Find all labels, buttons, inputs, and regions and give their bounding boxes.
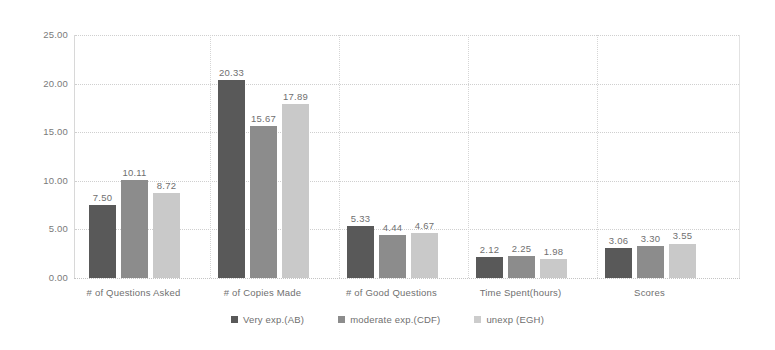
legend-item-label: unexp (EGH) — [486, 314, 544, 325]
y-axis-tick-label: 10.00 — [6, 176, 68, 186]
x-axis-category-label: Scores — [584, 287, 715, 299]
legend-item[interactable]: moderate exp.(CDF) — [338, 314, 440, 325]
y-axis-tick-label: 0.00 — [6, 273, 68, 283]
legend-item-label: Very exp.(AB) — [243, 314, 304, 325]
bar — [250, 126, 277, 278]
x-axis-category-label: # of Good Questions — [326, 287, 457, 299]
chart-legend: Very exp.(AB)moderate exp.(CDF)unexp (EG… — [0, 314, 775, 325]
x-axis-category-label: Time Spent(hours) — [455, 287, 586, 299]
bar-value-label: 8.72 — [144, 180, 189, 191]
bar — [508, 256, 535, 278]
bar — [153, 193, 180, 278]
square-dark-swatch — [231, 316, 238, 323]
x-axis-category-label: # of Questions Asked — [68, 287, 199, 299]
bar — [379, 235, 406, 278]
bar-value-label: 4.67 — [402, 220, 447, 231]
bar — [218, 80, 245, 278]
bar — [637, 246, 664, 278]
square-light-swatch — [474, 316, 481, 323]
bar — [347, 226, 374, 278]
legend-item[interactable]: unexp (EGH) — [474, 314, 544, 325]
y-axis-tick-label: 15.00 — [6, 127, 68, 137]
legend-item[interactable]: Very exp.(AB) — [231, 314, 304, 325]
bar — [89, 205, 116, 278]
group-separator — [468, 35, 469, 278]
bar-value-label: 7.50 — [80, 192, 125, 203]
bar-value-label: 17.89 — [273, 91, 318, 102]
bar — [411, 233, 438, 278]
gridline — [75, 35, 739, 36]
plot-area: 7.5010.118.7220.3315.6717.895.334.444.67… — [74, 35, 740, 278]
bar — [121, 180, 148, 278]
bar — [476, 257, 503, 278]
y-axis-tick-label: 25.00 — [6, 30, 68, 40]
bar — [282, 104, 309, 278]
y-axis-tick-label: 5.00 — [6, 224, 68, 234]
bar — [605, 248, 632, 278]
group-separator — [339, 35, 340, 278]
gridline — [75, 84, 739, 85]
bar — [540, 259, 567, 278]
square-medium-swatch — [338, 316, 345, 323]
bar-value-label: 15.67 — [241, 113, 286, 124]
gridline — [75, 132, 739, 133]
bar-value-label: 10.11 — [112, 167, 157, 178]
bar — [669, 244, 696, 279]
bar-value-label: 20.33 — [209, 67, 254, 78]
x-axis-category-label: # of Copies Made — [197, 287, 328, 299]
legend-item-label: moderate exp.(CDF) — [350, 314, 440, 325]
x-axis-baseline — [74, 278, 740, 279]
y-axis-tick-label: 20.00 — [6, 79, 68, 89]
bar-value-label: 1.98 — [531, 246, 576, 257]
bar-chart: 0.005.0010.0015.0020.0025.00 7.5010.118.… — [0, 0, 775, 350]
y-axis: 0.005.0010.0015.0020.0025.00 — [0, 0, 68, 350]
bar-value-label: 3.55 — [660, 230, 705, 241]
